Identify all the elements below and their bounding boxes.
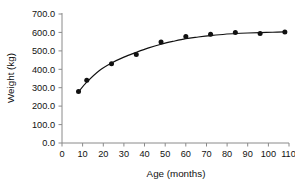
data-point <box>208 32 213 37</box>
chart-container: 700.0 600.0 500.0 400.0 300.0 200.0 100.… <box>0 0 295 190</box>
x-tick-label-70: 70 <box>201 149 211 159</box>
x-tick-label-40: 40 <box>139 149 149 159</box>
x-tick-label-30: 30 <box>119 149 129 159</box>
data-point <box>159 40 164 45</box>
y-tick-label-300: 300.0 <box>32 83 55 93</box>
x-tick-label-50: 50 <box>160 149 170 159</box>
x-axis-ticks <box>62 143 289 147</box>
y-axis-ticks <box>59 14 63 143</box>
x-axis: 0 10 20 30 40 50 60 70 80 90 100 110 Age… <box>59 143 295 179</box>
y-tick-label-400: 400.0 <box>32 65 55 75</box>
weight-vs-age-chart: 700.0 600.0 500.0 400.0 300.0 200.0 100.… <box>0 0 295 190</box>
data-point <box>183 34 188 39</box>
y-tick-label-200: 200.0 <box>32 101 55 111</box>
x-tick-label-80: 80 <box>222 149 232 159</box>
data-point <box>84 78 89 83</box>
x-tick-label-60: 60 <box>181 149 191 159</box>
x-tick-label-20: 20 <box>98 149 108 159</box>
y-axis-title: Weight (kg) <box>5 53 16 103</box>
y-tick-label-700: 700.0 <box>32 9 55 19</box>
y-axis: 700.0 600.0 500.0 400.0 300.0 200.0 100.… <box>5 9 62 148</box>
y-tick-label-0: 0.0 <box>42 138 55 148</box>
y-tick-label-600: 600.0 <box>32 28 55 38</box>
data-point <box>233 30 238 35</box>
plot-area <box>76 30 287 94</box>
x-axis-title: Age (months) <box>147 168 206 179</box>
y-tick-label-100: 100.0 <box>32 120 55 130</box>
x-tick-label-0: 0 <box>59 149 64 159</box>
data-point <box>258 31 263 36</box>
data-point <box>134 52 139 57</box>
data-point <box>76 89 81 94</box>
data-point <box>282 30 287 35</box>
x-tick-label-10: 10 <box>77 149 87 159</box>
x-tick-label-100: 100 <box>261 149 276 159</box>
x-tick-label-110: 110 <box>281 149 295 159</box>
y-tick-label-500: 500.0 <box>32 46 55 56</box>
growth-fit-curve <box>79 32 285 92</box>
x-tick-label-90: 90 <box>243 149 253 159</box>
data-point <box>109 61 114 66</box>
